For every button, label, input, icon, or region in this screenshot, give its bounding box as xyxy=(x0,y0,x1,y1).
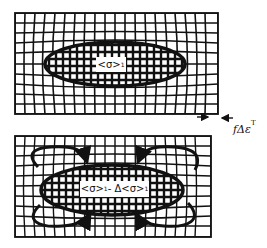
bottom-inclusion-label: <σ>1 - Δ<σ>1 xyxy=(80,181,149,197)
strain-text: fΔε xyxy=(233,123,251,136)
diagram-canvas xyxy=(0,0,267,248)
strain-superscript: T xyxy=(251,119,256,127)
strain-arrows xyxy=(197,117,233,118)
label-subscript: 1 xyxy=(121,62,125,68)
label-sigma: <σ> xyxy=(98,60,121,70)
label-sigma: <σ> xyxy=(81,184,104,194)
label-delta-sigma: - Δ<σ> xyxy=(108,184,145,194)
strain-label: fΔεT xyxy=(233,122,256,136)
label-subscript-2: 1 xyxy=(144,186,148,192)
top-inclusion-label: <σ>1 xyxy=(96,57,126,72)
